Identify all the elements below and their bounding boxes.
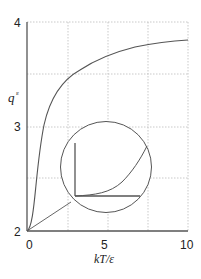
- x-tick-0: 0: [26, 238, 33, 252]
- y-axis-label: q: [8, 90, 15, 105]
- magnified-inset: [61, 122, 152, 213]
- chart: 4 3 2 0 5 10 q ε kT/ε: [0, 0, 201, 279]
- y-tick-3: 3: [14, 120, 21, 134]
- y-tick-2: 2: [14, 225, 21, 239]
- y-tick-4: 4: [14, 16, 21, 30]
- y-axis-label-superscript: ε: [16, 89, 19, 97]
- x-axis-label: kT/ε: [94, 252, 114, 266]
- x-tick-5: 5: [101, 238, 108, 252]
- x-tick-10: 10: [180, 238, 194, 252]
